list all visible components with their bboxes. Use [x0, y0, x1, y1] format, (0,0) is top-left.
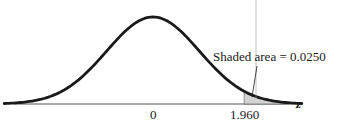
shaded-area-annotation: Shaded area = 0.0250	[213, 50, 326, 63]
tick-label-critical: 1.960	[230, 108, 259, 121]
axis-label-z: z	[296, 97, 301, 110]
tick-label-zero: 0	[150, 108, 157, 121]
